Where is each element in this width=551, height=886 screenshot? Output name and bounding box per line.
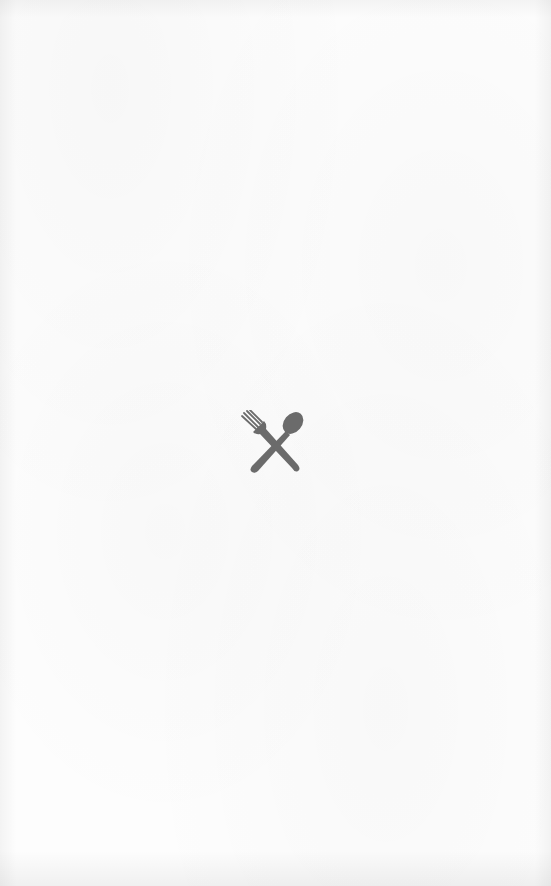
splash-screen <box>0 0 551 886</box>
fork-spoon-icon <box>240 410 306 474</box>
